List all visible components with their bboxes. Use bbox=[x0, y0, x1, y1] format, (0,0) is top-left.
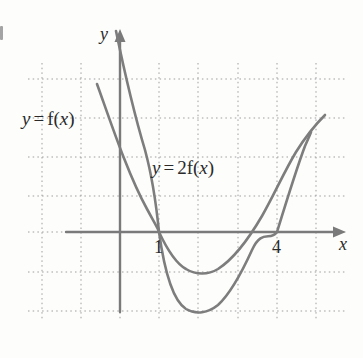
x-tick-label-4: 4 bbox=[272, 237, 281, 258]
curve-label-2-f-of-x-expr: 2f( bbox=[177, 157, 199, 178]
curve-label-f-of-x-expr: f( bbox=[47, 108, 60, 129]
x-tick-label-1: 1 bbox=[154, 237, 163, 258]
math-figure-graph: y=f(x) y=2f(x) y x 1 4 bbox=[0, 0, 363, 358]
curve-label-f-of-x-equals: = bbox=[30, 108, 47, 129]
curve-label-f-of-x-close: ) bbox=[68, 108, 74, 129]
x-axis-label: x bbox=[339, 234, 347, 255]
curve-label-f-of-x-var: x bbox=[60, 108, 68, 129]
y-axis-label: y bbox=[100, 24, 108, 45]
plot-canvas bbox=[0, 0, 363, 358]
curve-label-2-f-of-x-close: ) bbox=[208, 157, 214, 178]
curve-label-2-f-of-x-equals: = bbox=[160, 157, 177, 178]
curve-label-2-f-of-x: y=2f(x) bbox=[152, 157, 214, 179]
grid-lines-horizontal bbox=[28, 79, 345, 311]
curve-label-2-f-of-x-var: x bbox=[199, 157, 207, 178]
curve-label-f-of-x: y=f(x) bbox=[22, 108, 75, 130]
